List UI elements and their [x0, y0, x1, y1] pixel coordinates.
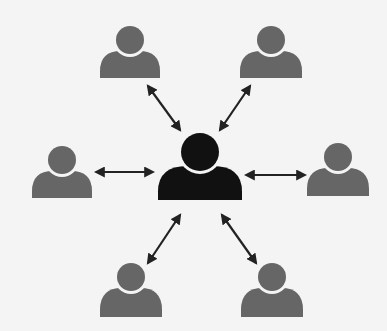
central-user-icon: [158, 130, 242, 200]
peer-bottom-right-icon: [241, 260, 303, 317]
peer-top-right-icon: [240, 23, 302, 78]
peer-right-icon: [307, 140, 369, 196]
diagram-canvas: [0, 0, 387, 331]
peer-top-left-icon: [100, 23, 160, 78]
network-diagram: [0, 0, 387, 331]
peer-bottom-left-icon: [100, 260, 162, 317]
arrow-top-left-icon: [148, 86, 180, 130]
arrow-bottom-left-icon: [148, 215, 180, 263]
arrow-bottom-right-icon: [222, 215, 256, 263]
peer-left-icon: [32, 143, 92, 198]
arrow-top-right-icon: [220, 86, 250, 130]
